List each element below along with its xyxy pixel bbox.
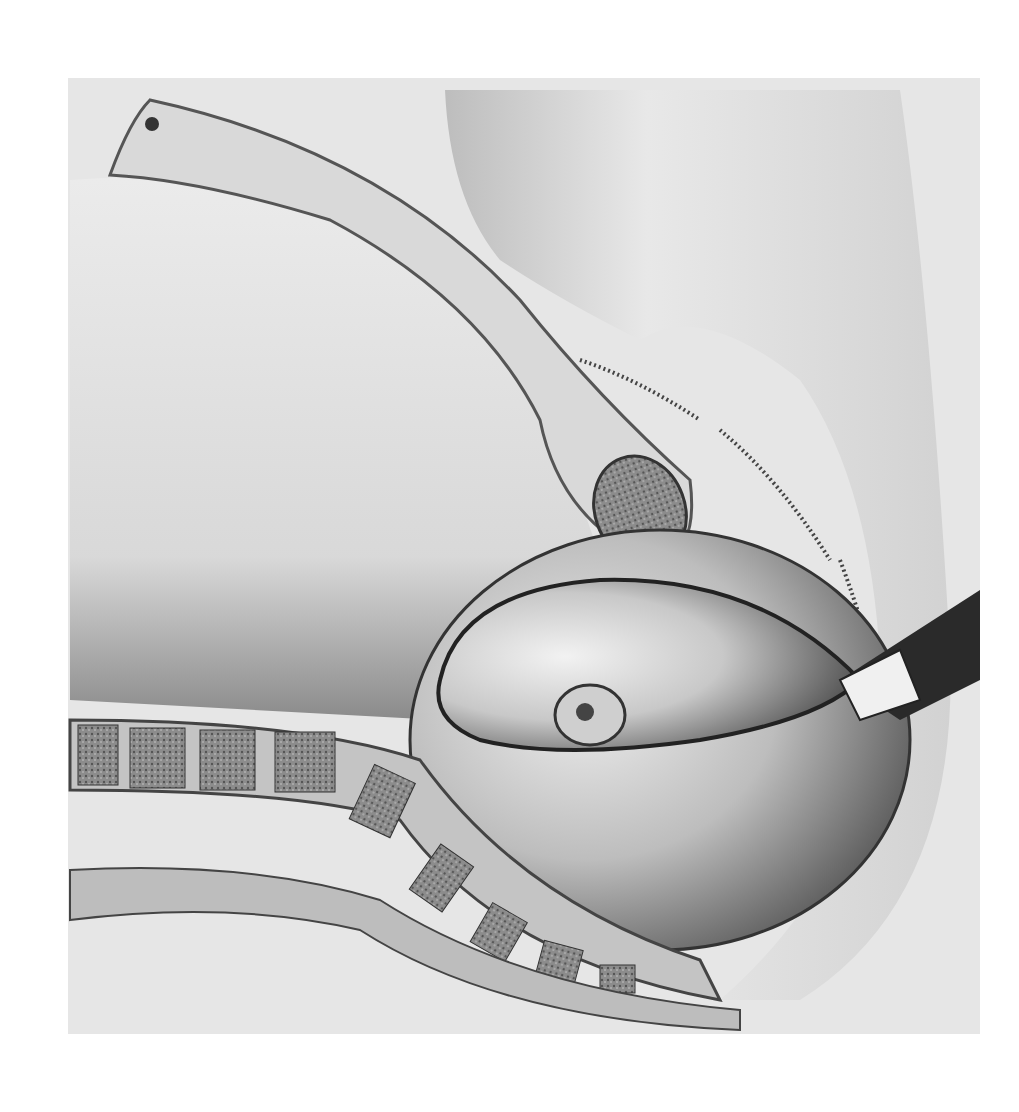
bone-foramen (145, 117, 159, 131)
illustration-frame (68, 78, 980, 1034)
fetal-ear-detail (576, 703, 594, 721)
anatomical-illustration (68, 78, 980, 1034)
